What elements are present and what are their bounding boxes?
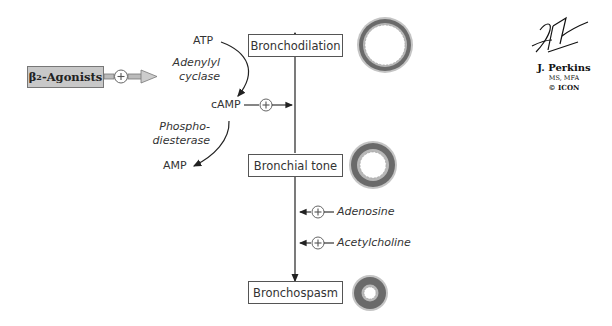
bronchospasm-box: Bronchospasm xyxy=(248,281,343,304)
camp-label: cAMP xyxy=(211,98,241,111)
adenylyl-cyclase-label: Adenylyl cyclase xyxy=(160,56,220,84)
copyright-logo: © ICON xyxy=(532,83,596,93)
phosphodiesterase-label: Phospho- diesterase xyxy=(150,120,210,148)
airway-constricted-icon xyxy=(352,275,388,311)
bronchial-tone-box: Bronchial tone xyxy=(248,154,343,177)
adenosine-arrow xyxy=(300,206,334,218)
atp-to-camp-arrow xyxy=(221,42,249,96)
airway-normal-icon xyxy=(349,141,397,189)
agonist-prefix: β xyxy=(29,70,37,84)
artist-credit: J. Perkins MS, MFA © ICON xyxy=(532,62,596,93)
acetylcholine-label: Acetylcholine xyxy=(337,236,411,250)
amp-label: AMP xyxy=(163,159,187,172)
beta2-agonists-box: β2-Agonists xyxy=(27,66,104,88)
diesterase-line: diesterase xyxy=(150,134,210,148)
netter-signature-icon xyxy=(532,18,588,52)
camp-stimulation-arrow xyxy=(244,99,292,111)
bronchodilation-box: Bronchodilation xyxy=(248,34,343,57)
acetylcholine-arrow xyxy=(300,237,334,249)
agonist-suffix: -Agonists xyxy=(42,70,102,84)
adenosine-label: Adenosine xyxy=(337,205,395,219)
agonist-stimulation-arrow xyxy=(104,70,157,83)
artist-name: J. Perkins xyxy=(532,62,596,74)
atp-label: ATP xyxy=(193,34,213,47)
artist-degree: MS, MFA xyxy=(532,74,596,83)
airway-dilated-icon xyxy=(357,17,413,73)
adenylyl-line: Adenylyl xyxy=(160,56,220,70)
phospho-line: Phospho- xyxy=(150,120,210,134)
cyclase-line: cyclase xyxy=(160,70,220,84)
